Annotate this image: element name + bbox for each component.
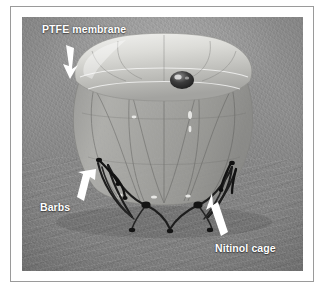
label-ptfe-membrane: PTFE membrane	[42, 23, 126, 35]
arrow-ptfe-membrane	[63, 45, 78, 79]
label-nitinol-cage: Nitinol cage	[215, 242, 276, 254]
label-barbs: Barbs	[40, 201, 70, 213]
annotation-arrows	[22, 17, 303, 271]
figure-root: PTFE membrane Barbs Nitinol cage	[0, 0, 326, 292]
arrow-nitinol-cage	[206, 193, 228, 236]
arrow-barbs	[77, 169, 96, 201]
figure-caption	[12, 285, 132, 291]
device-photograph: PTFE membrane Barbs Nitinol cage	[22, 17, 303, 271]
